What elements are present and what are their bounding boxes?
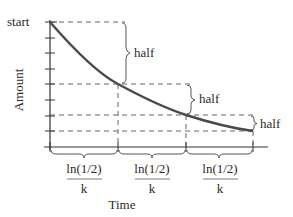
interval-label-3: ln(1/2) k xyxy=(202,161,238,196)
brace-half-3 xyxy=(251,116,257,130)
x-axis-label: Time xyxy=(109,197,136,212)
numerator: ln(1/2) xyxy=(134,161,169,176)
interval-braces xyxy=(51,150,252,158)
half-braces xyxy=(122,23,257,130)
denominator: k xyxy=(149,181,156,196)
axes xyxy=(44,20,268,150)
brace-half-1 xyxy=(122,23,130,83)
denominator: k xyxy=(217,181,224,196)
y-axis-label: Amount xyxy=(11,68,26,111)
start-label: start xyxy=(7,14,30,29)
interval-label-1: ln(1/2) k xyxy=(66,161,102,196)
denominator: k xyxy=(81,181,88,196)
brace-half-2 xyxy=(187,85,195,114)
half-label-1: half xyxy=(134,45,155,60)
half-label-3: half xyxy=(260,116,281,131)
interval-label-2: ln(1/2) k xyxy=(134,161,170,196)
numerator: ln(1/2) xyxy=(66,161,101,176)
half-label-2: half xyxy=(199,91,220,106)
numerator: ln(1/2) xyxy=(202,161,237,176)
dashed-guides xyxy=(50,22,253,147)
decay-diagram: start Amount half half half ln(1/2) k ln… xyxy=(0,0,293,217)
